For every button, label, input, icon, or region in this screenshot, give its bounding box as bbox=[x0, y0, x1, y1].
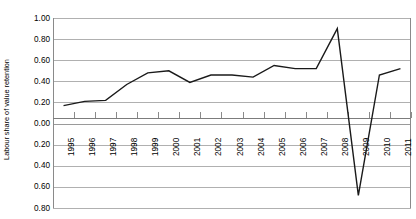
line-chart: Labour share of value retention 1.000.80… bbox=[0, 0, 416, 219]
series-line-labour-share bbox=[64, 29, 401, 196]
data-series-layer bbox=[0, 0, 416, 219]
